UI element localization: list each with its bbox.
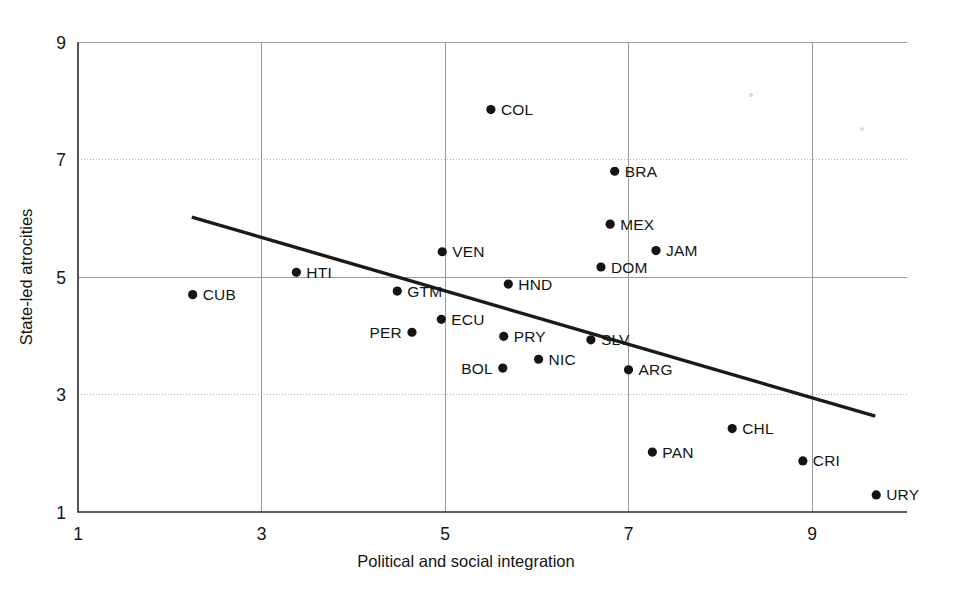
data-point-hti: HTI xyxy=(292,264,332,281)
data-points-group: COLBRAMEXJAMDOMVENHTICUBHNDGTMECUPERPRYS… xyxy=(188,101,919,503)
point-label: COL xyxy=(501,101,534,118)
regression-trend-line xyxy=(192,217,876,416)
data-point-per: PER xyxy=(369,324,416,341)
point-marker xyxy=(534,355,543,364)
data-point-gtm: GTM xyxy=(393,283,443,300)
scatter-plot-figure: COLBRAMEXJAMDOMVENHTICUBHNDGTMECUPERPRYS… xyxy=(0,0,954,597)
point-marker xyxy=(586,335,595,344)
y-tick-label: 7 xyxy=(56,150,66,170)
point-marker xyxy=(872,490,881,499)
point-marker xyxy=(188,290,197,299)
data-point-bol: BOL xyxy=(461,360,507,377)
point-marker xyxy=(596,262,605,271)
point-marker xyxy=(648,447,657,456)
trend-line-group xyxy=(192,217,876,416)
point-marker xyxy=(498,363,507,372)
point-label: MEX xyxy=(620,216,655,233)
x-tick-label: 9 xyxy=(807,524,817,544)
point-label: JAM xyxy=(666,242,698,259)
data-point-nic: NIC xyxy=(534,351,576,368)
point-marker xyxy=(651,246,660,255)
point-marker xyxy=(499,332,508,341)
data-point-ury: URY xyxy=(872,486,920,503)
point-label: CHL xyxy=(742,420,774,437)
y-tick-label: 5 xyxy=(56,268,66,288)
point-label: SLV xyxy=(601,331,630,348)
point-label: PER xyxy=(369,324,401,341)
point-label: ECU xyxy=(451,311,484,328)
point-label: HND xyxy=(518,276,552,293)
data-point-cub: CUB xyxy=(188,286,236,303)
data-point-dom: DOM xyxy=(596,259,647,276)
data-point-cri: CRI xyxy=(798,452,840,469)
point-marker xyxy=(393,287,402,296)
point-label: NIC xyxy=(549,351,576,368)
x-tick-label: 5 xyxy=(440,524,450,544)
point-label: CUB xyxy=(203,286,236,303)
point-label: CRI xyxy=(813,452,840,469)
point-label: HTI xyxy=(306,264,332,281)
point-label: ARG xyxy=(639,361,673,378)
data-point-pry: PRY xyxy=(499,328,546,345)
data-point-mex: MEX xyxy=(606,216,655,233)
data-point-hnd: HND xyxy=(504,276,553,293)
point-label: GTM xyxy=(407,283,442,300)
point-label: PAN xyxy=(662,444,693,461)
point-marker xyxy=(504,279,513,288)
x-axis-title: Political and social integration xyxy=(357,552,574,570)
data-point-bra: BRA xyxy=(610,163,658,180)
data-point-pan: PAN xyxy=(648,444,694,461)
x-tick-label: 7 xyxy=(624,524,634,544)
y-tick-label: 9 xyxy=(56,33,66,53)
y-tick-label: 1 xyxy=(56,503,66,523)
point-marker xyxy=(798,456,807,465)
data-point-jam: JAM xyxy=(651,242,697,259)
y-axis-tick-labels: 13579 xyxy=(56,33,66,523)
scan-speck-icon xyxy=(860,127,864,131)
y-axis-title: State-led atrocities xyxy=(17,209,35,346)
point-marker xyxy=(438,247,447,256)
data-point-col: COL xyxy=(486,101,533,118)
y-tick-label: 3 xyxy=(56,385,66,405)
point-label: PRY xyxy=(514,328,546,345)
point-marker xyxy=(437,315,446,324)
chart-canvas: COLBRAMEXJAMDOMVENHTICUBHNDGTMECUPERPRYS… xyxy=(0,0,954,597)
point-label: BRA xyxy=(625,163,658,180)
data-point-arg: ARG xyxy=(624,361,673,378)
scan-speck-icon xyxy=(749,93,753,97)
point-marker xyxy=(728,424,737,433)
scan-artifacts xyxy=(749,93,864,131)
x-tick-label: 3 xyxy=(257,524,267,544)
x-tick-label: 1 xyxy=(73,524,83,544)
data-point-ecu: ECU xyxy=(437,311,485,328)
point-label: DOM xyxy=(611,259,648,276)
x-axis-tick-labels: 13579 xyxy=(73,524,817,544)
data-point-chl: CHL xyxy=(728,420,774,437)
point-marker xyxy=(292,268,301,277)
point-label: BOL xyxy=(461,360,493,377)
point-marker xyxy=(624,365,633,374)
point-marker xyxy=(610,167,619,176)
point-marker xyxy=(407,328,416,337)
point-label: URY xyxy=(886,486,919,503)
point-marker xyxy=(486,105,495,114)
point-label: VEN xyxy=(452,243,484,260)
point-marker xyxy=(606,220,615,229)
